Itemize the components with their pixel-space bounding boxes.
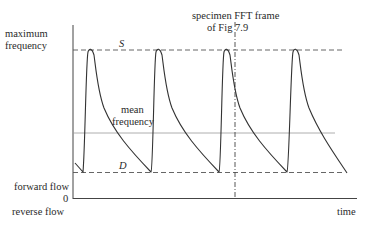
fft-annotation-line2: of Fig 7.9 bbox=[207, 22, 248, 33]
systolic-label: S bbox=[119, 38, 125, 49]
mean-label-line1: mean bbox=[121, 104, 144, 115]
diastolic-label: D bbox=[118, 160, 127, 171]
doppler-waveform-diagram: maximum frequency forward flow 0 reverse… bbox=[0, 0, 368, 226]
x-label-time: time bbox=[337, 206, 356, 217]
y-label-frequency: frequency bbox=[5, 40, 48, 51]
max-frequency-waveform bbox=[75, 49, 347, 173]
y-label-reverse-flow: reverse flow bbox=[12, 206, 65, 217]
fft-annotation-line1: specimen FFT frame bbox=[192, 10, 280, 21]
mean-label-line2: frequency bbox=[112, 116, 155, 127]
y-label-zero: 0 bbox=[63, 193, 68, 204]
y-label-forward-flow: forward flow bbox=[14, 181, 70, 192]
y-label-maximum: maximum bbox=[5, 28, 48, 39]
